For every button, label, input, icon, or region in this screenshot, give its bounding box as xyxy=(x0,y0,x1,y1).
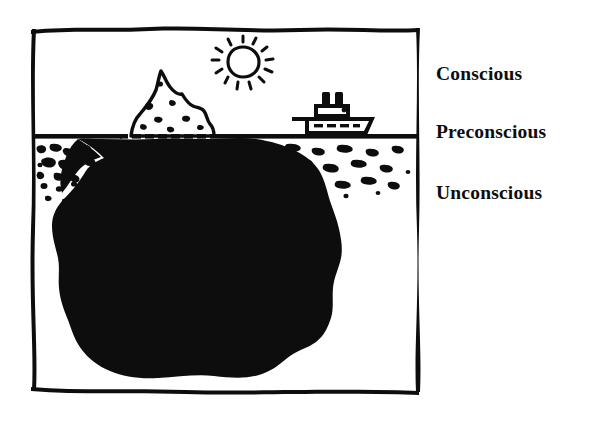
zone-labels: Conscious Preconscious Unconscious xyxy=(430,0,600,424)
iceberg-diagram-svg xyxy=(0,0,440,424)
label-conscious: Conscious xyxy=(436,64,522,84)
label-unconscious: Unconscious xyxy=(436,183,542,203)
label-preconscious: Preconscious xyxy=(436,122,546,142)
iceberg-submerged-mass xyxy=(52,138,342,378)
water-surface-line xyxy=(32,134,417,139)
iceberg-illustration xyxy=(0,0,440,424)
sun-icon xyxy=(212,36,273,89)
ship-icon xyxy=(292,92,375,135)
iceberg-tip xyxy=(131,71,214,136)
sun-rays xyxy=(212,36,273,89)
figure-page: Conscious Preconscious Unconscious xyxy=(0,0,600,424)
